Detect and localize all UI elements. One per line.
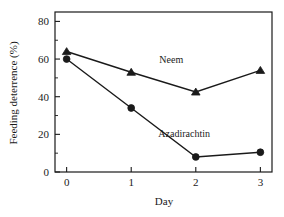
y-tick-label: 80 bbox=[38, 15, 50, 27]
x-tick-label: 3 bbox=[258, 176, 264, 188]
y-tick-label: 20 bbox=[38, 128, 50, 140]
x-axis-title: Day bbox=[155, 195, 174, 207]
data-point-circle bbox=[257, 149, 264, 156]
x-tick-label: 2 bbox=[193, 176, 199, 188]
series-annotation-azadirachtin: Azadirachtin bbox=[158, 128, 210, 139]
y-tick-label: 0 bbox=[44, 166, 50, 178]
x-tick-label: 0 bbox=[64, 176, 70, 188]
y-tick-label: 40 bbox=[38, 91, 50, 103]
y-tick-label: 60 bbox=[38, 53, 50, 65]
chart-background bbox=[0, 0, 284, 217]
data-point-circle bbox=[63, 56, 70, 63]
chart-figure: 020406080 0123 NeemAzadirachtin Feeding … bbox=[0, 0, 284, 217]
feeding-deterrence-line-chart: 020406080 0123 NeemAzadirachtin Feeding … bbox=[0, 0, 284, 217]
data-point-circle bbox=[192, 154, 199, 161]
y-axis-title: Feeding deterrence (%) bbox=[7, 41, 20, 145]
series-annotation-neem: Neem bbox=[159, 54, 183, 65]
x-tick-label: 1 bbox=[128, 176, 134, 188]
data-point-circle bbox=[128, 105, 135, 112]
